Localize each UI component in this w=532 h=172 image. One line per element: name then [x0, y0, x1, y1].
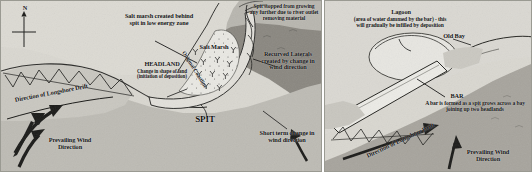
lagoon-sublabel: (area of water dammed by the bar) - this…	[349, 17, 451, 29]
spit-stopped-note-label: Spit stopped from growing any further du…	[249, 4, 319, 22]
coastal-landforms-figure: N Salt marsh created behind spit in low …	[0, 0, 532, 172]
headland-label: HEADLAND	[135, 61, 189, 68]
salt-marsh-label: Salt Marsh	[199, 44, 229, 51]
bar-sublabel: A bar is formed as a spit grows across a…	[423, 101, 527, 113]
bar-diagram-panel: Lagoon (area of water dammed by the bar)…	[324, 0, 532, 172]
prevailing-wind-label-right: Prevailing Wind Direction	[457, 149, 519, 162]
old-bay-label: Old Bay	[433, 33, 475, 40]
headland-sublabel: Change in shape of land (initiation of d…	[131, 69, 193, 80]
recurved-laterals-label: Recurved Laterals created by change in w…	[255, 51, 321, 71]
spit-label: SPIT	[187, 115, 223, 125]
lagoon-label: Lagoon	[381, 9, 421, 16]
compass-north-label: N	[19, 5, 31, 12]
short-term-change-label: Short term change in wind direction	[255, 130, 319, 143]
bar-label: BAR	[443, 93, 471, 100]
salt-marsh-note-label: Salt marsh created behind spit in low en…	[122, 13, 196, 26]
spit-diagram-panel: N Salt marsh created behind spit in low …	[0, 0, 322, 172]
prevailing-wind-label-left: Prevailing Wind Direction	[39, 137, 101, 150]
